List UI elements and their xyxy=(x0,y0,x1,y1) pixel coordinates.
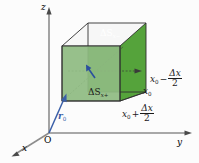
origin-label: O xyxy=(44,136,51,145)
face-label-x-minus: ΔSx− xyxy=(100,29,121,39)
delta-s-symbol-plus: ΔS xyxy=(88,87,101,97)
r0-subscript: 0 xyxy=(63,116,67,122)
coord-center-base-sub: 0 xyxy=(148,91,152,97)
face-label-x-plus: ΔSx+ xyxy=(88,88,109,98)
coord-plus-denominator: 2 xyxy=(140,114,154,123)
coord-label-plus: x0+ Δx 2 xyxy=(122,104,154,124)
coord-plus-op: + xyxy=(131,109,141,119)
face-sub-sign-plus: + xyxy=(104,92,109,98)
y-axis-arrowhead xyxy=(185,130,193,135)
coord-plus-fraction: Δx 2 xyxy=(140,104,154,124)
coord-label-center: x0 xyxy=(143,87,152,97)
coord-minus-denominator: 2 xyxy=(168,79,182,88)
z-axis-label: z xyxy=(41,3,46,12)
coord-minus-op: − xyxy=(159,74,169,84)
z-axis-arrowhead xyxy=(46,7,51,15)
coord-minus-fraction: Δx 2 xyxy=(168,69,182,89)
coord-label-minus: x0− Δx 2 xyxy=(150,69,182,89)
x-axis-label: x xyxy=(22,144,27,153)
figure-canvas: z y x O r0 ΔSx− ΔSx+ x0− Δx 2 x0 x0+ Δx … xyxy=(0,0,199,163)
delta-s-symbol-minus: ΔS xyxy=(100,28,113,38)
r0-vector-label: r0 xyxy=(58,112,66,122)
y-axis-label: y xyxy=(177,138,182,147)
face-sub-sign-minus: − xyxy=(116,33,121,39)
